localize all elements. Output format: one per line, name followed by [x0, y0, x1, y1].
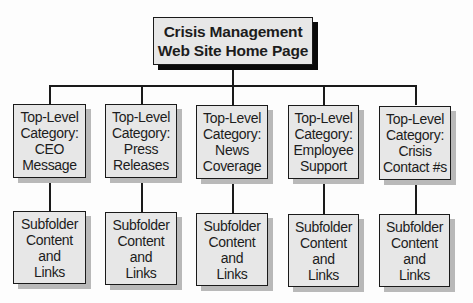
subfolder-label: Subfolder Content and Links [386, 219, 443, 283]
category-node-ceo-message: Top-Level Category: CEO Message [13, 104, 86, 178]
category-node-crisis-contacts: Top-Level Category: Crisis Contact #s [379, 106, 451, 180]
connector-to-subfolder-3 [232, 178, 234, 213]
category-node-news-coverage: Top-Level Category: News Coverage [196, 105, 268, 179]
connector-to-category-2 [141, 85, 143, 105]
category-label: Top-Level Category: Crisis Contact #s [383, 111, 447, 175]
subfolder-label: Subfolder Content and Links [112, 217, 169, 281]
category-label: Top-Level Category: CEO Message [20, 109, 78, 173]
root-label: Crisis Management Web Site Home Page [158, 22, 308, 60]
connector-to-category-5 [415, 85, 417, 105]
subfolder-node-employee-support: Subfolder Content and Links [288, 214, 359, 287]
category-label: Top-Level Category: News Coverage [203, 110, 261, 174]
subfolder-node-crisis-contacts: Subfolder Content and Links [379, 214, 450, 287]
root-connector [232, 64, 234, 86]
subfolder-label: Subfolder Content and Links [21, 216, 78, 280]
category-node-employee-support: Top-Level Category: Employee Support [288, 105, 359, 179]
connector-to-category-4 [323, 85, 325, 105]
category-node-press-releases: Top-Level Category: Press Releases [105, 104, 177, 178]
category-label: Top-Level Category: Employee Support [294, 110, 354, 174]
connector-to-category-3 [232, 85, 234, 105]
connector-to-category-1 [49, 85, 51, 105]
subfolder-label: Subfolder Content and Links [295, 219, 352, 283]
connector-to-subfolder-2 [141, 177, 143, 212]
root-node: Crisis Management Web Site Home Page [153, 17, 313, 65]
connector-to-subfolder-4 [323, 179, 325, 214]
connector-to-subfolder-1 [49, 177, 51, 212]
subfolder-node-press-releases: Subfolder Content and Links [105, 212, 177, 285]
subfolder-node-news-coverage: Subfolder Content and Links [196, 213, 268, 286]
subfolder-node-ceo-message: Subfolder Content and Links [13, 211, 86, 284]
subfolder-label: Subfolder Content and Links [203, 218, 260, 282]
category-label: Top-Level Category: Press Releases [112, 109, 170, 173]
connector-to-subfolder-5 [415, 180, 417, 215]
